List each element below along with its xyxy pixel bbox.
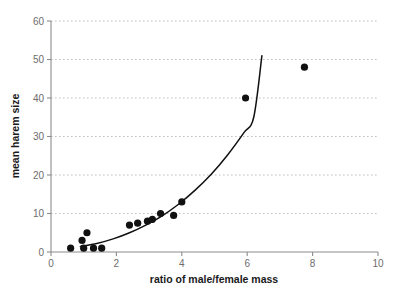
x-tick-label-10: 10 bbox=[372, 258, 384, 269]
data-point bbox=[98, 245, 105, 252]
y-tick-label-20: 20 bbox=[33, 170, 45, 181]
gridlines bbox=[51, 21, 378, 214]
y-tick-label-50: 50 bbox=[33, 54, 45, 65]
data-point bbox=[78, 237, 85, 244]
y-tick-label-0: 0 bbox=[38, 247, 44, 258]
chart-container: 0102030405060 0246810 ratio of male/fema… bbox=[0, 0, 420, 292]
y-tick-label-60: 60 bbox=[33, 16, 45, 27]
x-axis-ticks: 0246810 bbox=[48, 252, 384, 269]
data-point bbox=[80, 245, 87, 252]
y-tick-label-10: 10 bbox=[33, 208, 45, 219]
y-axis-ticks: 0102030405060 bbox=[33, 16, 51, 258]
y-tick-label-40: 40 bbox=[33, 93, 45, 104]
y-axis: 0102030405060 bbox=[33, 16, 51, 258]
x-tick-label-4: 4 bbox=[179, 258, 185, 269]
data-point bbox=[90, 245, 97, 252]
x-tick-label-2: 2 bbox=[114, 258, 120, 269]
data-point bbox=[178, 198, 185, 205]
x-tick-label-0: 0 bbox=[48, 258, 54, 269]
data-point bbox=[67, 245, 74, 252]
y-axis-title: mean harem size bbox=[9, 94, 21, 179]
x-tick-label-8: 8 bbox=[310, 258, 316, 269]
data-point bbox=[157, 210, 164, 217]
x-axis: 0246810 bbox=[48, 252, 384, 269]
data-point bbox=[301, 64, 308, 71]
harem-size-scatter-chart: 0102030405060 0246810 ratio of male/fema… bbox=[0, 0, 420, 292]
data-point bbox=[242, 94, 249, 101]
data-point bbox=[149, 216, 156, 223]
scatter-points bbox=[67, 64, 308, 252]
x-axis-title: ratio of male/female mass bbox=[150, 273, 279, 285]
data-point bbox=[134, 220, 141, 227]
y-tick-label-30: 30 bbox=[33, 131, 45, 142]
x-tick-label-6: 6 bbox=[244, 258, 250, 269]
data-point bbox=[170, 212, 177, 219]
data-point bbox=[83, 229, 90, 236]
data-point bbox=[126, 221, 133, 228]
